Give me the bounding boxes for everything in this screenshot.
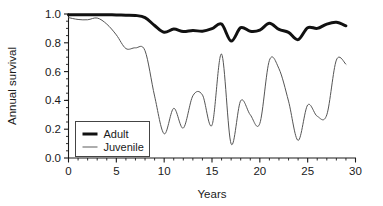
y-tick-label: 1.0 [45,8,61,20]
y-tick-label: 0.8 [45,37,61,49]
y-tick-label: 0.0 [45,152,61,164]
x-axis-title: Years [198,188,227,200]
y-axis-title: Annual survival [6,47,18,125]
x-tick-label: 20 [253,165,266,177]
x-tick-label: 0 [65,165,71,177]
y-axis: 0.00.20.40.60.81.0 [45,8,69,164]
y-tick-label: 0.6 [45,66,61,78]
x-tick-label: 25 [301,165,314,177]
legend-label-juvenile: Juvenile [104,141,144,153]
x-axis: 051015202530 [65,158,362,177]
y-tick-label: 0.4 [45,94,62,106]
chart-legend: AdultJuvenile [76,122,150,157]
y-tick-label: 0.2 [45,123,61,135]
x-tick-label: 5 [113,165,119,177]
chart-canvas: 0.00.20.40.60.81.0 051015202530 AdultJuv… [0,0,383,206]
x-tick-label: 30 [349,165,362,177]
legend-label-adult: Adult [104,128,129,140]
x-tick-label: 15 [206,165,219,177]
survival-chart-figure: 0.00.20.40.60.81.0 051015202530 AdultJuv… [0,0,383,206]
x-tick-label: 10 [158,165,171,177]
